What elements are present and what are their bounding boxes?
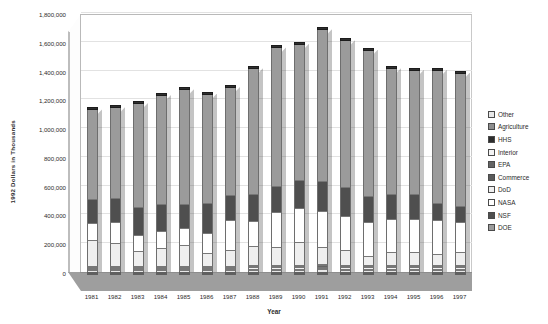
bar-segment-hhs[interactable] [386,269,397,270]
bar-segment-nsf[interactable] [248,194,259,221]
bar-segment-interior[interactable] [455,267,466,268]
bar-segment-epa[interactable] [455,266,466,267]
bar-segment-dod[interactable] [455,252,466,264]
bar-segment-nsf[interactable] [271,186,282,213]
bar-segment-epa[interactable] [363,266,374,267]
bar-segment-nasa[interactable] [156,231,167,248]
bar-segment-hhs[interactable] [317,268,328,269]
bar-segment-doe[interactable] [179,89,190,204]
bar-segment-agriculture[interactable] [179,270,190,271]
bar-segment-nsf[interactable] [363,196,374,222]
bar-segment-nsf[interactable] [386,194,397,219]
bar-segment-interior[interactable] [179,268,190,269]
bar-segment-dod[interactable] [409,252,420,265]
bar-segment-commerce[interactable] [225,266,236,267]
bar-segment-nasa[interactable] [317,211,328,246]
bar-segment-commerce[interactable] [133,266,144,267]
bar-segment-commerce[interactable] [248,265,259,266]
bar-segment-epa[interactable] [156,267,167,268]
bar-segment-commerce[interactable] [432,265,443,266]
bar-segment-other[interactable] [110,271,121,272]
bar-segment-hhs[interactable] [225,269,236,270]
bar-segment-hhs[interactable] [248,269,259,270]
bar-segment-other[interactable] [271,271,282,272]
bar-segment-hhs[interactable] [294,269,305,270]
bar-segment-agriculture[interactable] [409,270,420,271]
bar-segment-dod[interactable] [202,253,213,266]
bar-segment-hhs[interactable] [271,269,282,270]
legend-item-nasa[interactable]: NASA [488,196,546,209]
bar-segment-nsf[interactable] [133,207,144,235]
bar-segment-agriculture[interactable] [455,270,466,271]
bar-segment-dod[interactable] [248,246,259,265]
bar-segment-nsf[interactable] [225,195,236,220]
bar-segment-dod[interactable] [294,242,305,264]
bar-segment-nasa[interactable] [363,222,374,256]
bar-segment-epa[interactable] [386,266,397,267]
bar-segment-epa[interactable] [110,267,121,268]
bar-segment-doe[interactable] [87,109,98,198]
bar-segment-hhs[interactable] [432,269,443,270]
bar-segment-doe[interactable] [363,50,374,197]
bar-segment-doe[interactable] [317,29,328,181]
bar-segment-nasa[interactable] [409,219,420,251]
bar-segment-hhs[interactable] [179,269,190,270]
bar-segment-nsf[interactable] [87,199,98,223]
bar-segment-dod[interactable] [110,243,121,266]
bar-segment-other[interactable] [409,271,420,272]
bar-segment-dod[interactable] [133,251,144,265]
bar-segment-interior[interactable] [294,267,305,268]
bar-segment-agriculture[interactable] [133,270,144,271]
bar-segment-other[interactable] [133,271,144,272]
bar-segment-agriculture[interactable] [156,270,167,271]
bar-segment-interior[interactable] [363,267,374,268]
bar-segment-hhs[interactable] [455,269,466,270]
bar-segment-nsf[interactable] [340,187,351,216]
bar-segment-other[interactable] [179,271,190,272]
bar-segment-dod[interactable] [179,245,190,266]
bar-segment-nasa[interactable] [225,220,236,249]
bar-segment-epa[interactable] [225,267,236,268]
bar-segment-nasa[interactable] [432,220,443,254]
bar-segment-doe[interactable] [432,70,443,203]
bar-segment-agriculture[interactable] [225,270,236,271]
bar-segment-epa[interactable] [340,266,351,267]
bar-segment-nasa[interactable] [248,221,259,246]
bar-segment-nasa[interactable] [202,233,213,252]
bar-segment-commerce[interactable] [340,265,351,266]
bar-segment-agriculture[interactable] [363,270,374,271]
bar-segment-doe[interactable] [248,68,259,194]
bar-segment-hhs[interactable] [340,269,351,270]
bar-segment-interior[interactable] [133,268,144,269]
bar-segment-dod[interactable] [87,240,98,265]
bar-segment-nasa[interactable] [179,228,190,245]
bar-segment-commerce[interactable] [317,264,328,265]
bar-segment-doe[interactable] [271,47,282,185]
bar-segment-agriculture[interactable] [271,270,282,271]
bar-segment-doe[interactable] [202,94,213,203]
bar-segment-nsf[interactable] [294,180,305,208]
bar-segment-interior[interactable] [87,268,98,269]
bar-segment-agriculture[interactable] [248,270,259,271]
bar-segment-commerce[interactable] [363,265,374,266]
bar-segment-other[interactable] [340,271,351,272]
bar-segment-dod[interactable] [432,254,443,265]
bar-segment-nsf[interactable] [432,203,443,220]
bar-segment-agriculture[interactable] [340,270,351,271]
bar-segment-agriculture[interactable] [110,270,121,271]
bar-segment-interior[interactable] [317,267,328,268]
bar-segment-dod[interactable] [363,256,374,265]
bar-segment-interior[interactable] [271,267,282,268]
bar-segment-dod[interactable] [340,250,351,264]
bar-segment-epa[interactable] [432,266,443,267]
legend-item-nsf[interactable]: NSF [488,209,546,222]
bar-segment-doe[interactable] [156,95,167,204]
legend-item-hhs[interactable]: HHS [488,133,546,146]
bar-segment-epa[interactable] [179,267,190,268]
bar-segment-epa[interactable] [409,266,420,267]
bar-segment-hhs[interactable] [409,269,420,270]
bar-segment-nasa[interactable] [87,223,98,240]
bar-segment-nasa[interactable] [455,222,466,252]
bar-segment-other[interactable] [455,271,466,272]
bar-segment-doe[interactable] [386,68,397,194]
